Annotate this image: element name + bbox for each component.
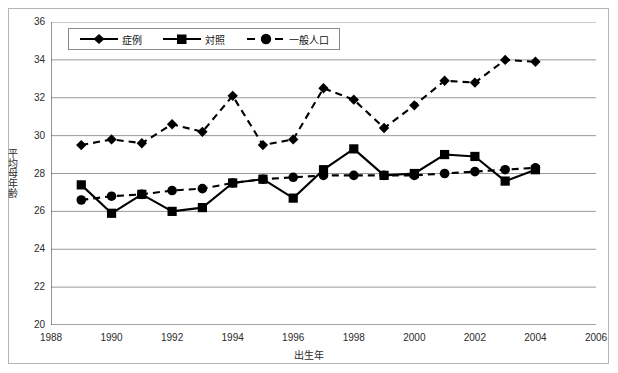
legend-label-control: 対照: [205, 32, 225, 47]
data-point: [137, 190, 147, 200]
data-point: [440, 150, 449, 159]
x-tick-label: 1992: [152, 332, 192, 343]
data-point: [167, 119, 177, 129]
legend-item-general-population: 一般人口: [246, 32, 329, 47]
data-point: [76, 195, 86, 205]
data-point: [288, 172, 298, 182]
x-tick-label: 1994: [213, 332, 253, 343]
data-point: [470, 167, 480, 177]
legend-item-control: 対照: [162, 32, 225, 47]
data-point: [319, 171, 329, 181]
y-tick-label: 20: [19, 319, 45, 330]
legend-item-case: 症例: [79, 32, 142, 47]
y-tick-label: 26: [19, 205, 45, 216]
square-marker-icon: [162, 33, 202, 45]
x-tick-label: 1988: [31, 332, 71, 343]
y-tick-label: 28: [19, 168, 45, 179]
x-axis-title: 出生年: [0, 347, 618, 362]
data-point: [500, 55, 510, 65]
data-point: [289, 194, 298, 203]
chart-container: 202224262830323436 198819901992199419961…: [0, 0, 618, 373]
y-axis-title: 平均母年齢: [6, 148, 17, 198]
data-point: [198, 203, 207, 212]
data-point: [379, 171, 389, 181]
x-tick-label: 2002: [455, 332, 495, 343]
y-tick-label: 24: [19, 243, 45, 254]
plot-area: [51, 22, 596, 325]
data-point: [228, 178, 238, 188]
data-point: [258, 140, 268, 150]
y-tick-label: 34: [19, 54, 45, 65]
y-tick-label: 36: [19, 16, 45, 27]
y-tick-label: 22: [19, 281, 45, 292]
x-tick-label: 1996: [273, 332, 313, 343]
data-point: [349, 171, 359, 181]
x-tick-label: 2004: [515, 332, 555, 343]
data-point: [531, 163, 541, 173]
series-line-1: [81, 149, 535, 213]
data-point: [501, 176, 510, 185]
chart-legend: 症例 対照 一般人口: [68, 28, 340, 50]
x-tick-label: 2000: [394, 332, 434, 343]
data-point: [318, 83, 328, 93]
diamond-marker-icon: [79, 33, 119, 45]
data-point: [410, 171, 420, 181]
data-point: [349, 144, 358, 153]
data-point: [168, 207, 177, 216]
y-tick-label: 32: [19, 92, 45, 103]
data-point: [137, 138, 147, 148]
y-tick-label: 30: [19, 130, 45, 141]
x-tick-label: 1998: [334, 332, 374, 343]
data-point: [440, 169, 450, 179]
data-point: [258, 174, 268, 184]
circle-marker-icon: [246, 33, 286, 45]
x-tick-label: 1990: [92, 332, 132, 343]
data-point: [500, 165, 510, 175]
data-point: [107, 191, 117, 201]
legend-label-case: 症例: [122, 32, 142, 47]
data-point: [409, 100, 419, 110]
x-tick-label: 2006: [576, 332, 616, 343]
data-point: [76, 140, 86, 150]
data-point: [107, 209, 116, 218]
data-point: [198, 184, 208, 194]
series-line-0: [81, 60, 535, 145]
data-point: [167, 186, 177, 196]
data-point: [530, 57, 540, 67]
data-point: [470, 152, 479, 161]
legend-label-general-population: 一般人口: [289, 32, 329, 47]
data-point: [77, 180, 86, 189]
